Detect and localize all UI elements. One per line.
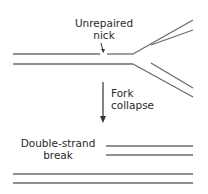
lower-daughter-strand	[151, 63, 193, 88]
nick-pointer-arrow-icon	[101, 43, 105, 53]
nick-label-line1: Unrepaired	[73, 17, 135, 29]
broken-fork-fragment	[106, 146, 193, 155]
fork-collapse-line2: collapse	[111, 99, 154, 111]
fork-collapse-line1: Fork	[111, 87, 154, 99]
fork-collapse-arrow-icon	[100, 82, 106, 123]
dsb-label-line2: break	[18, 149, 98, 161]
dsb-label-line1: Double-strand	[18, 137, 98, 149]
top-strand-fork-arm	[133, 20, 193, 54]
unrepaired-nick-label: Unrepaired nick	[73, 17, 135, 41]
fork-collapse-label: Fork collapse	[111, 87, 154, 111]
double-strand-break-label: Double-strand break	[18, 137, 98, 161]
nick-label-line2: nick	[73, 29, 135, 41]
intact-duplex	[13, 174, 193, 183]
